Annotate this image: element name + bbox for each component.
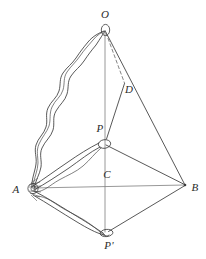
sketch-edge-a-o-third	[33, 31, 105, 186]
node-dot-b	[184, 184, 187, 187]
sketch-edge-a-p-lower	[34, 147, 100, 190]
dashed-edges	[106, 33, 125, 83]
node-ellipse-o	[101, 24, 109, 35]
sketch-edge-a-o-outer	[32, 31, 104, 188]
node-markers	[28, 24, 186, 237]
vertex-label-a: A	[13, 184, 20, 195]
sketch-edge-a-o	[32, 31, 105, 189]
sketch-edge-a-p-prime-lower	[33, 195, 104, 235]
sketch-edge-a-p	[33, 143, 101, 192]
sketch-edge-a-p-upper	[33, 143, 99, 186]
vertex-label-p-prime: P'	[104, 240, 113, 251]
edge-a-b	[33, 185, 185, 188]
geometry-figure: O D P C A B P'	[0, 0, 206, 259]
vertex-label-o: O	[101, 9, 109, 20]
solid-edges	[33, 32, 185, 233]
sketch-edge-a-p-prime	[33, 191, 109, 236]
node-ellipse-p	[98, 139, 111, 149]
vertex-label-c: C	[103, 169, 111, 180]
vertex-label-b: B	[192, 182, 199, 193]
sketch-edge-a-p-prime-wiggle	[36, 196, 105, 236]
edge-b-p-prime	[109, 186, 186, 232]
vertex-label-d: D	[125, 84, 133, 95]
edge-o-d	[106, 33, 125, 83]
sketch-edge-a-o-inner	[34, 31, 105, 189]
edge-p-b	[106, 145, 185, 185]
edge-d-p	[107, 84, 125, 140]
edge-o-b	[106, 32, 186, 186]
vertex-label-p: P	[97, 123, 104, 134]
sketch-edge-a-p-wiggle	[35, 148, 101, 192]
